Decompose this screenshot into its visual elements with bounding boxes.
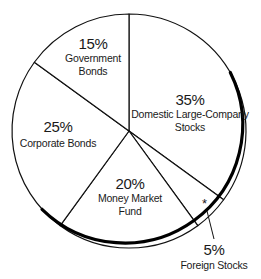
label-money-market: 20% Money Market Fund (98, 175, 162, 218)
label-foreign-stocks: 5% Foreign Stocks (180, 241, 247, 272)
name-money-market-line2: Fund (98, 205, 162, 218)
foreign-stocks-asterisk: * (202, 196, 207, 211)
name-money-market-line1: Money Market (98, 192, 162, 205)
name-government-bonds-line2: Bonds (65, 65, 121, 78)
label-government-bonds: 15% Government Bonds (65, 35, 121, 78)
pct-foreign-stocks: 5% (180, 241, 247, 258)
name-government-bonds-line1: Government (65, 52, 121, 65)
name-corporate-bonds: Corporate Bonds (20, 137, 96, 150)
pct-domestic-stocks: 35% (131, 91, 249, 108)
label-corporate-bonds: 25% Corporate Bonds (20, 118, 96, 150)
pct-corporate-bonds: 25% (20, 118, 96, 135)
pct-money-market: 20% (98, 175, 162, 192)
pct-government-bonds: 15% (65, 35, 121, 52)
name-domestic-stocks-line1: Domestic Large-Company (131, 108, 249, 121)
name-domestic-stocks-line2: Stocks (131, 121, 249, 134)
name-foreign-stocks: Foreign Stocks (180, 259, 247, 272)
label-domestic-stocks: 35% Domestic Large-Company Stocks (131, 91, 249, 134)
